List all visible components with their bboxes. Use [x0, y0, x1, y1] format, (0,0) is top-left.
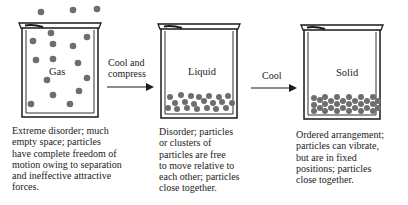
- liquid-description: Disorder; particles or clusters of parti…: [159, 126, 240, 194]
- liquid-label: Liquid: [188, 66, 216, 77]
- transition-label-cool-and-compress: Cool and compress: [108, 57, 146, 79]
- transition-label-cool: Cool: [262, 70, 281, 81]
- solid-description: Ordered arrangement; particles can vibra…: [296, 129, 384, 185]
- gas-label: Gas: [49, 66, 65, 77]
- solid-particles: [311, 94, 381, 114]
- gas-particles: [28, 6, 101, 108]
- arrow-cool-and-compress: [107, 83, 154, 91]
- states-of-matter-diagram: Gas Liquid Solid Cool and compress Cool …: [0, 0, 408, 205]
- solid-label: Solid: [336, 67, 358, 78]
- arrow-cool: [251, 84, 297, 92]
- gas-description: Extreme disorder; much empty space; part…: [12, 125, 122, 193]
- liquid-particles: [165, 92, 235, 112]
